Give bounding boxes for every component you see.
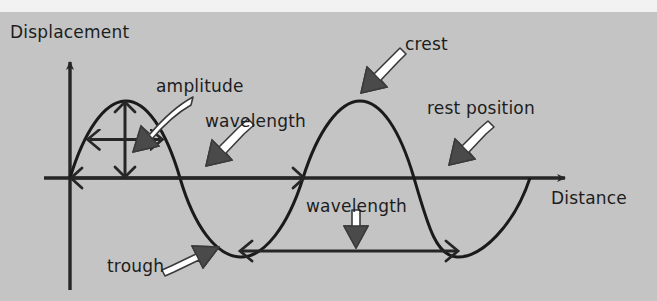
wave-diagram-graphic — [0, 0, 657, 301]
rest-position-pointer-arrow — [449, 121, 494, 165]
crest-pointer-arrow — [361, 48, 406, 93]
wavelength-top-measure-arrow — [71, 168, 304, 188]
wave-diagram-page: Displacement Distance amplitude waveleng… — [0, 0, 657, 301]
trough-pointer-arrow — [162, 246, 219, 276]
x-axis-label: Distance — [551, 190, 627, 207]
rest-position-label: rest position — [427, 100, 535, 117]
wavelength-top-label: wavelength — [205, 113, 306, 130]
crest-label: crest — [405, 36, 448, 53]
wavelength-bottom-measure-arrow — [240, 241, 458, 261]
wavelength-bottom-label: wavelength — [306, 198, 407, 215]
trough-label: trough — [107, 258, 164, 275]
y-axis-label: Displacement — [10, 24, 129, 41]
amplitude-label: amplitude — [156, 78, 244, 95]
